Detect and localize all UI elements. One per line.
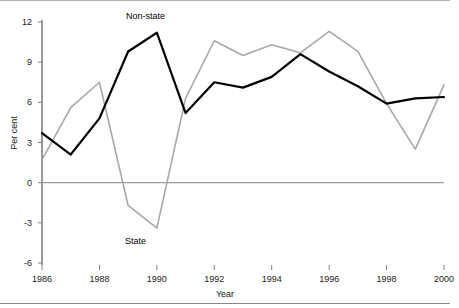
x-axis-label: Year (0, 289, 450, 299)
x-tick-label: 1992 (197, 274, 231, 284)
x-tick-label: 1998 (370, 274, 404, 284)
x-tick-label: 1990 (140, 274, 174, 284)
y-tick-label: 0 (10, 178, 32, 188)
series-annotation-nonstate: Non-state (126, 11, 165, 21)
y-tick-label: 12 (10, 17, 32, 27)
x-tick-label: 1994 (255, 274, 289, 284)
x-tick-marks (42, 265, 444, 270)
x-tick-label: 2000 (427, 274, 459, 284)
y-tick-label: -3 (10, 218, 32, 228)
y-tick-label: 9 (10, 57, 32, 67)
x-tick-label: 1988 (82, 274, 116, 284)
y-tick-label: -6 (10, 258, 32, 268)
y-axis-label: Per cent (9, 103, 19, 163)
series-annotation-state: State (125, 236, 146, 246)
x-tick-label: 1996 (312, 274, 346, 284)
series-line-state (42, 31, 444, 228)
x-tick-label: 1986 (25, 274, 59, 284)
